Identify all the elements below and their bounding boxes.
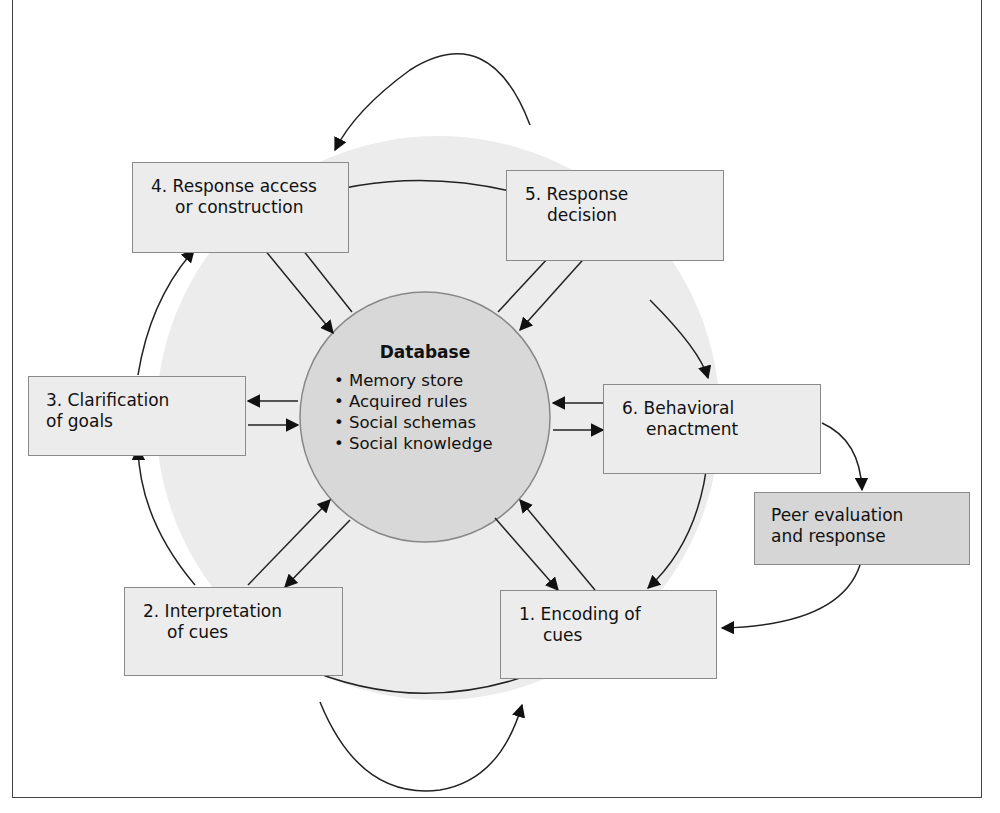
step-label: of cues [143, 622, 342, 643]
peer-label: and response [771, 526, 969, 547]
top-feedback-arrow [335, 54, 530, 150]
step-label: 1. Encoding of [519, 604, 716, 625]
step-2-box: 2. Interpretation of cues [124, 587, 343, 676]
step-label: enactment [622, 419, 820, 440]
database-item: • Acquired rules [334, 391, 493, 412]
database-items: • Memory store • Acquired rules • Social… [334, 370, 493, 454]
database-title: Database [300, 342, 550, 362]
step-label: 6. Behavioral [622, 398, 820, 419]
arrow-peer-to-1 [722, 565, 860, 628]
step-6-box: 6. Behavioral enactment [603, 384, 821, 474]
peer-label: Peer evaluation [771, 505, 969, 526]
bottom-feedback-arrow [320, 702, 522, 791]
step-label: 4. Response access [151, 176, 348, 197]
arrow-6-to-peer [822, 423, 862, 490]
step-label: cues [519, 625, 716, 646]
step-5-box: 5. Response decision [506, 170, 724, 261]
step-label: or construction [151, 197, 348, 218]
database-node: Database • Memory store • Acquired rules… [300, 292, 550, 542]
step-label: of goals [46, 411, 245, 432]
database-item: • Social schemas [334, 412, 493, 433]
database-item: • Memory store [334, 370, 493, 391]
step-label: 5. Response [525, 184, 723, 205]
database-item: • Social knowledge [334, 433, 493, 454]
peer-evaluation-box: Peer evaluation and response [754, 492, 970, 565]
step-label: decision [525, 205, 723, 226]
step-1-box: 1. Encoding of cues [500, 590, 717, 679]
step-3-box: 3. Clarification of goals [28, 376, 246, 456]
step-4-box: 4. Response access or construction [132, 162, 349, 253]
step-label: 2. Interpretation [143, 601, 342, 622]
step-label: 3. Clarification [46, 390, 245, 411]
